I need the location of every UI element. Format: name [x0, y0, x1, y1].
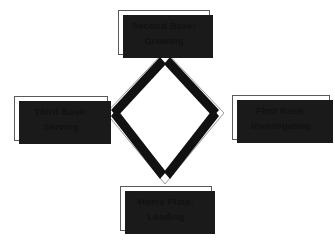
node-first-base-heading: First Base: — [256, 103, 306, 118]
connector-third-to-home — [111, 109, 166, 179]
inner-diamond-outline — [117, 64, 212, 171]
node-first-base-label: Investigating — [251, 118, 311, 133]
node-third-base-heading: Third Base: — [34, 104, 87, 119]
node-home-plate[interactable]: Home Plate: Leading — [120, 186, 212, 231]
node-third-base[interactable]: Third Base: Serving — [14, 96, 108, 141]
node-first-base[interactable]: First Base: Investigating — [232, 95, 330, 140]
node-second-base-heading: Second Base: — [132, 18, 196, 33]
outer-diamond-outline — [106, 51, 224, 184]
node-home-plate-label: Leading — [147, 209, 184, 224]
connector-first-to-second — [164, 57, 219, 117]
node-second-base[interactable]: Second Base: Growing — [118, 10, 210, 55]
connector-home-to-first — [164, 109, 219, 179]
diagram-canvas: Second Base: Growing First Base: Investi… — [0, 0, 335, 241]
node-second-base-label: Growing — [144, 33, 183, 48]
node-home-plate-heading: Home Plate: — [138, 194, 194, 209]
connector-second-to-third — [111, 57, 166, 117]
node-third-base-label: Serving — [43, 119, 79, 134]
